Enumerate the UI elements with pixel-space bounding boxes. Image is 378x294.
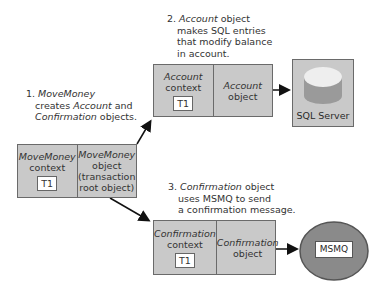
movemoney-context: MoveMoney context T1: [18, 145, 77, 197]
transaction-badge: T1: [173, 96, 193, 111]
database-cylinder-icon: [293, 60, 353, 110]
confirmation-object: Confirmation object: [216, 221, 279, 274]
movemoney-object: MoveMoney object (transaction root objec…: [77, 145, 137, 197]
account-box: Account context T1 Account object: [153, 64, 273, 117]
note-step-3: 3. Confirmation object uses MSMQ to send…: [168, 181, 296, 216]
transaction-badge: T1: [175, 253, 195, 268]
arrow-movemoney-to-confirmation: [110, 198, 148, 220]
account-object: Account object: [213, 65, 273, 116]
confirmation-context: Confirmation context T1: [154, 221, 216, 274]
account-context: Account context T1: [154, 65, 213, 116]
note-step-2: 2. Account object makes SQL entries that…: [167, 13, 272, 59]
transaction-badge: T1: [37, 176, 57, 191]
sql-server-box: SQL Server: [292, 59, 354, 127]
confirmation-box: Confirmation context T1 Confirmation obj…: [153, 220, 276, 275]
movemoney-box: MoveMoney context T1 MoveMoney object (t…: [17, 144, 137, 198]
arrow-movemoney-to-account: [137, 122, 150, 144]
sql-server-label: SQL Server: [293, 110, 353, 121]
msmq-label: MSMQ: [315, 241, 353, 258]
note-step-1: 1. MoveMoney creates Account and Confirm…: [26, 88, 137, 123]
